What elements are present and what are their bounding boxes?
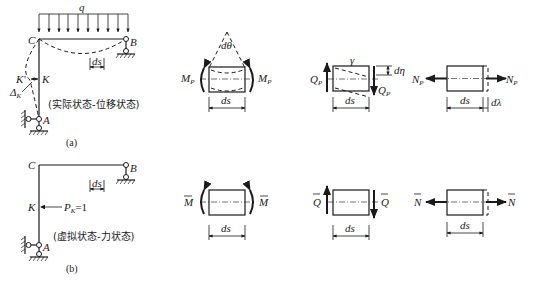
moment-label-left-real: MP [180, 72, 195, 86]
shear-label-right-virtual: Q [381, 196, 389, 208]
ds-label-shear-real: ds [345, 94, 355, 106]
caption-b: (b) [66, 263, 78, 275]
node-label-c: C [28, 34, 36, 46]
moment-label-left-virtual: M [183, 196, 194, 208]
moment-label-right-virtual: M [258, 196, 269, 208]
ds-label-axial-real: ds [460, 94, 470, 106]
node-label-k: K [41, 73, 50, 85]
node-label-b-virtual: B [130, 162, 137, 174]
shear-dim-deta: dη [394, 64, 405, 76]
distributed-load-arrows [39, 14, 128, 32]
ds-label-b: ds [92, 177, 102, 189]
beam-deflection-curve [39, 39, 126, 54]
caption-a: (a) [66, 137, 77, 149]
load-label-q: q [79, 1, 85, 13]
elongation-label-dlambda: dλ [491, 96, 502, 108]
moment-label-right-real: MP [257, 72, 272, 86]
shear-angle-gamma: γ [350, 54, 355, 66]
ds-label-a: ds [92, 55, 102, 67]
axial-label-right-real: NP [505, 73, 518, 87]
ds-label-axial-virtual: ds [460, 219, 470, 231]
ds-label-bending-real: ds [221, 94, 231, 106]
state-label-virtual: (虚拟状态-力状态) [53, 230, 135, 242]
virtual-work-diagram: q B C [0, 0, 533, 285]
panel-a-frame: q B C [9, 1, 140, 149]
state-label-real: (实际状态-位移状态) [48, 98, 140, 110]
axial-label-left-real: NP [411, 73, 424, 87]
node-label-k-prime: K' [15, 73, 26, 85]
ds-label-shear-virtual: ds [345, 222, 355, 234]
shear-label-right-real: QP [378, 84, 391, 98]
axial-label-right-virtual: N [507, 196, 516, 208]
unit-load-label: PK=1 [63, 201, 87, 215]
node-label-a: A [42, 114, 50, 126]
ds-label-bending-virtual: ds [221, 222, 231, 234]
axial-label-left-virtual: N [413, 196, 422, 208]
panel-b-frame: C B ds K PK=1 [21, 159, 137, 275]
node-label-b: B [130, 36, 137, 48]
shear-label-left-virtual: Q [313, 196, 321, 208]
node-label-k-virtual: K [27, 201, 36, 213]
angle-label-dtheta: dθ [221, 39, 233, 51]
node-label-c-virtual: C [28, 159, 36, 171]
node-label-a-virtual: A [42, 241, 50, 253]
shear-label-left-real: QP [310, 73, 323, 87]
displacement-label-delta-k: ΔK [9, 86, 21, 100]
